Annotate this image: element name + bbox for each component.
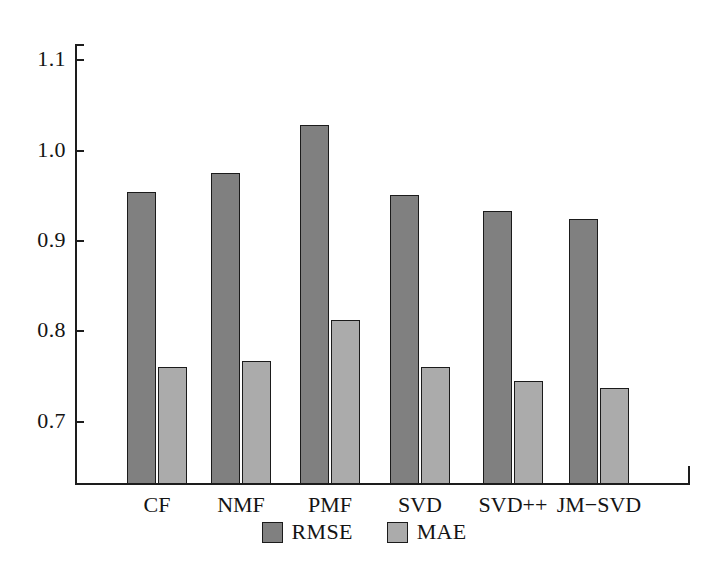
bar-PMF-RMSE[interactable] xyxy=(300,125,329,484)
y-tick-label-wrap: 1.0 xyxy=(14,139,66,161)
y-tick-0.7 xyxy=(75,421,84,423)
bar-SVD++-RMSE[interactable] xyxy=(483,211,512,484)
legend-item-mae[interactable]: MAE xyxy=(387,521,467,543)
y-tick-label-wrap: 0.7 xyxy=(14,410,66,432)
chart-legend: RMSE MAE xyxy=(0,521,728,543)
bar-CF-MAE[interactable] xyxy=(158,367,187,484)
y-tick-label-wrap: 0.9 xyxy=(14,229,66,251)
legend-swatch-rmse xyxy=(262,522,283,543)
bar-chart-figure: 0.70.80.91.01.1 CFNMFPMFSVDSVD++JM−SVD R… xyxy=(0,0,728,588)
bar-SVD-MAE[interactable] xyxy=(421,367,450,484)
y-tick-label: 1.1 xyxy=(20,48,66,70)
bar-NMF-MAE[interactable] xyxy=(242,361,271,484)
legend-item-rmse[interactable]: RMSE xyxy=(262,521,353,543)
y-tick-label-wrap: 0.8 xyxy=(14,319,66,341)
y-tick-label-wrap: 1.1 xyxy=(14,48,66,70)
y-axis-line xyxy=(75,44,77,485)
y-tick-0.9 xyxy=(75,240,84,242)
bar-CF-RMSE[interactable] xyxy=(127,192,156,484)
legend-label-mae: MAE xyxy=(417,521,467,543)
y-tick-label: 0.8 xyxy=(20,319,66,341)
bar-NMF-RMSE[interactable] xyxy=(211,173,240,484)
y-tick-label: 0.9 xyxy=(20,229,66,251)
bar-SVD-RMSE[interactable] xyxy=(390,195,419,484)
bar-JMSVD-MAE[interactable] xyxy=(600,388,629,484)
y-tick-label: 0.7 xyxy=(20,410,66,432)
bar-JMSVD-RMSE[interactable] xyxy=(569,219,598,484)
x-axis-label-JMSVD: JM−SVD xyxy=(529,492,669,518)
y-tick-0.8 xyxy=(75,330,84,332)
y-axis-top-cap xyxy=(75,44,84,46)
y-tick-label: 1.0 xyxy=(20,139,66,161)
bar-PMF-MAE[interactable] xyxy=(331,320,360,484)
legend-swatch-mae xyxy=(387,522,408,543)
y-tick-1.1 xyxy=(75,59,84,61)
legend-label-rmse: RMSE xyxy=(292,521,353,543)
bar-SVD++-MAE[interactable] xyxy=(514,381,543,484)
y-tick-1.0 xyxy=(75,150,84,152)
x-axis-right-cap xyxy=(688,466,690,485)
